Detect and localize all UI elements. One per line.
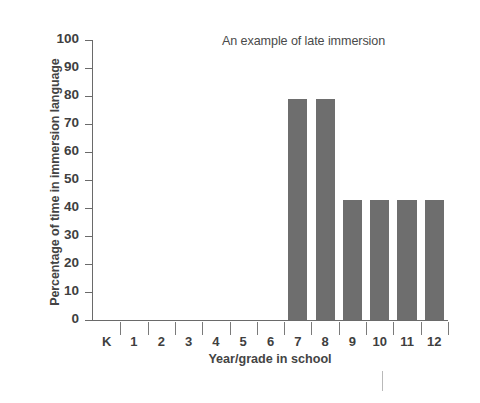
x-axis-separator (175, 322, 176, 335)
x-axis-tick-label: 5 (240, 334, 247, 349)
x-axis-separator (421, 322, 422, 335)
plot-area: An example of late immersion 10090807060… (92, 40, 447, 320)
y-axis-tick: 10 (85, 292, 92, 293)
y-axis-tick-label: 80 (64, 87, 79, 102)
bar (425, 200, 444, 320)
x-axis-separator (148, 322, 149, 335)
x-axis-title: Year/grade in school (92, 352, 448, 366)
x-axis-separator (257, 322, 258, 335)
y-axis-tick: 20 (85, 264, 92, 265)
x-axis-tick-label: 3 (185, 334, 192, 349)
y-axis-tick: 30 (85, 236, 92, 237)
y-axis-tick: 60 (85, 152, 92, 153)
y-axis-tick: 90 (85, 68, 92, 69)
y-axis-tick: 0 (85, 320, 92, 321)
y-axis-tick-label: 70 (64, 115, 79, 130)
x-axis-tick-label: 2 (158, 334, 165, 349)
x-axis-separator (284, 322, 285, 335)
y-axis-tick-label: 50 (64, 171, 79, 186)
y-axis-tick-label: 20 (64, 255, 79, 270)
x-axis-tick-label: K (102, 334, 111, 349)
x-axis-separator (393, 322, 394, 335)
x-axis-separator (448, 322, 449, 335)
x-axis-tick-label: 11 (400, 334, 414, 349)
x-axis-separator (120, 322, 121, 335)
bar (316, 99, 335, 320)
x-axis-separator (230, 322, 231, 335)
bar-series (93, 40, 448, 320)
y-axis-tick-label: 90 (64, 59, 79, 74)
x-axis-separator (202, 322, 203, 335)
y-axis-tick: 70 (85, 124, 92, 125)
y-axis-tick-label: 30 (64, 227, 79, 242)
x-axis-tick-label: 8 (321, 334, 328, 349)
bar (397, 200, 416, 320)
y-axis-tick-label: 10 (64, 283, 79, 298)
bar-chart-figure: Percentage of time in immersion language… (0, 0, 480, 403)
x-axis-tick-label: 10 (372, 334, 386, 349)
y-axis-tick-label: 0 (71, 311, 79, 326)
y-axis-tick-label: 40 (64, 199, 79, 214)
bar (288, 99, 307, 320)
x-axis-tick-label: 6 (267, 334, 274, 349)
x-axis-separator (339, 322, 340, 335)
x-axis-separator (311, 322, 312, 335)
x-axis-separator (366, 322, 367, 335)
y-axis-tick: 40 (85, 208, 92, 209)
x-axis-tick-label: 12 (427, 334, 441, 349)
y-axis-title: Percentage of time in immersion language (48, 32, 62, 332)
y-axis-tick: 100 (85, 40, 92, 41)
bar (343, 200, 362, 320)
x-axis-tick-label: 4 (212, 334, 219, 349)
x-axis-tick-label: 1 (130, 334, 137, 349)
y-axis-tick: 50 (85, 180, 92, 181)
page-artifact-mark (382, 371, 383, 391)
bar (370, 200, 389, 320)
y-axis-tick-label: 60 (64, 143, 79, 158)
x-axis-tick-label: 9 (349, 334, 356, 349)
y-axis-tick: 80 (85, 96, 92, 97)
x-axis-tick-label: 7 (294, 334, 301, 349)
y-axis-tick-label: 100 (56, 31, 79, 46)
